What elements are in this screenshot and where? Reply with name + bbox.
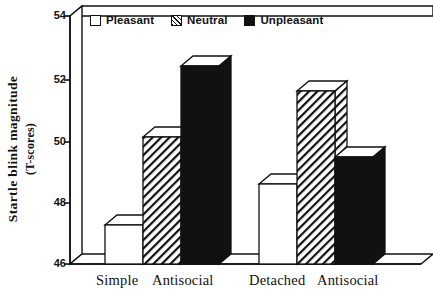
legend-label-pleasant: Pleasant	[106, 14, 154, 26]
hatched-square-icon	[171, 15, 182, 26]
bar-detached-unpleasant	[335, 147, 385, 264]
y-axis-ticks	[64, 16, 70, 264]
legend-item-neutral: Neutral	[171, 14, 227, 26]
legend-item-unpleasant: Unpleasant	[244, 14, 323, 26]
x-axis-label-detached: Detached	[249, 272, 305, 288]
x-axis-label-antisocial-2: Antisocial	[317, 272, 379, 288]
bar-simple-unpleasant	[181, 56, 231, 264]
legend: Pleasant Neutral Unpleasant	[90, 14, 323, 26]
legend-item-pleasant: Pleasant	[90, 14, 154, 26]
filled-square-icon	[244, 15, 255, 26]
x-axis-label-antisocial-1: Antisocial	[152, 272, 214, 288]
legend-label-neutral: Neutral	[187, 14, 227, 26]
legend-label-unpleasant: Unpleasant	[260, 14, 323, 26]
plot-area	[0, 0, 433, 298]
empty-square-icon	[90, 15, 101, 26]
x-axis-label-simple: Simple	[96, 272, 138, 288]
bar-chart-figure: Startle blink magnitude (T-scores) 54 52…	[0, 0, 433, 298]
